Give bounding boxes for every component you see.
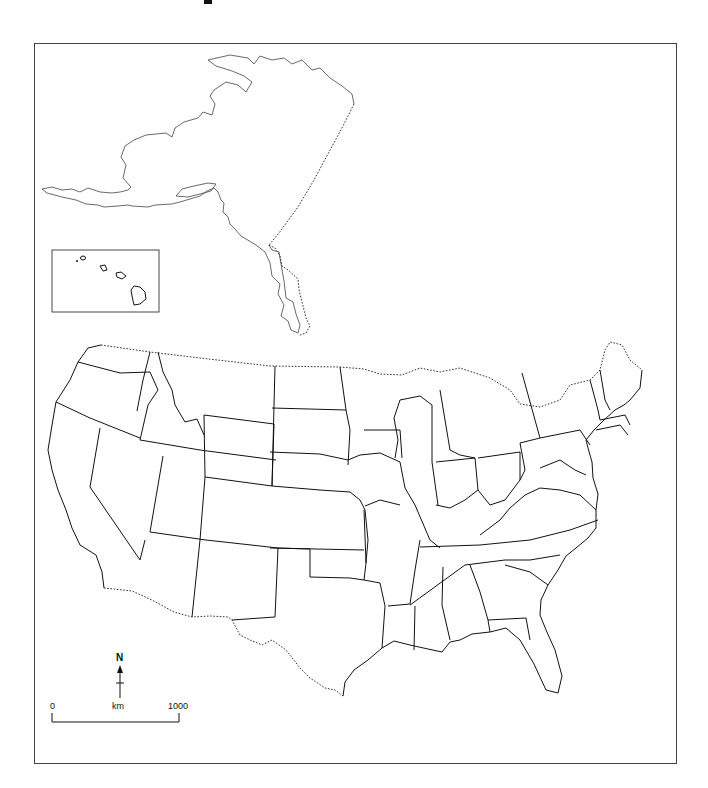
north-label: N — [116, 652, 123, 663]
alaska-inset — [42, 55, 354, 335]
scale-bar — [52, 713, 179, 722]
scale-end-label: 1000 — [168, 701, 188, 711]
scale-start-label: 0 — [50, 701, 55, 711]
scale-unit-label: km — [112, 701, 124, 711]
hawaii-inset — [52, 250, 159, 312]
contiguous-us — [48, 342, 642, 696]
map-canvas — [0, 0, 708, 788]
north-arrow-icon — [116, 665, 124, 698]
